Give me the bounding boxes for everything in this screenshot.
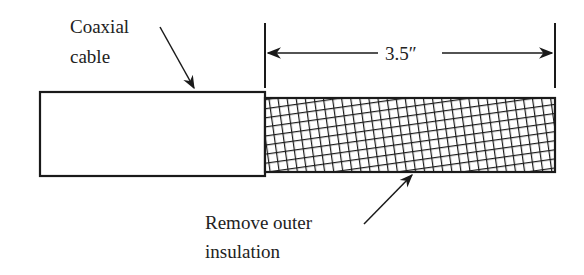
- remove-insulation-label-line1: Remove outer: [205, 212, 313, 233]
- coaxial-cable-label-line2: cable: [70, 46, 110, 67]
- coaxial-cable-label-line1: Coaxial: [70, 16, 129, 37]
- coax-diagram: 3.5″ Coaxial cable Remove outer insulati…: [0, 0, 584, 275]
- coaxial-cable-leader-arrow: [160, 27, 194, 88]
- braid-exposed-section: [265, 98, 555, 172]
- cable-insulated-section: [40, 92, 265, 176]
- dimension-label: 3.5″: [385, 43, 417, 64]
- remove-insulation-label-line2: insulation: [205, 241, 280, 262]
- remove-insulation-leader-arrow: [364, 175, 412, 224]
